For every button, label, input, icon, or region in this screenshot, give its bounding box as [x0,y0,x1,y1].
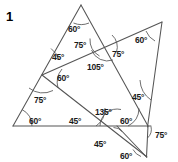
arc-right-upper-60 [146,31,155,41]
angle-label-right-45: 45° [132,93,144,102]
angle-label-center-105: 105° [87,63,104,72]
angle-label-inner-60: 60° [57,74,69,83]
angle-label-right-upper-60: 60° [135,36,147,45]
geometry-lines [0,0,178,162]
line-small-triangle-right [147,126,149,157]
angle-label-bottom-right-60: 60° [120,117,132,126]
angle-label-far-right-75: 75° [155,131,167,140]
angle-label-apex-60: 60° [68,25,80,34]
angle-label-left-45: 45° [52,53,64,62]
angle-label-baseline-45: 45° [69,117,81,126]
angle-label-upper-75: 75° [74,41,86,50]
angle-label-lower-45: 45° [94,140,106,149]
angle-label-left-75: 75° [34,96,46,105]
angle-label-lower-60: 60° [120,152,132,161]
angle-label-bottom-left-60: 60° [29,117,41,126]
angle-label-right-75: 75° [112,50,124,59]
geometry-figure: 1 [0,0,178,162]
arc-left-75 [29,88,53,93]
angle-label-center-135: 135° [95,108,112,117]
line-right-edge [148,22,163,127]
